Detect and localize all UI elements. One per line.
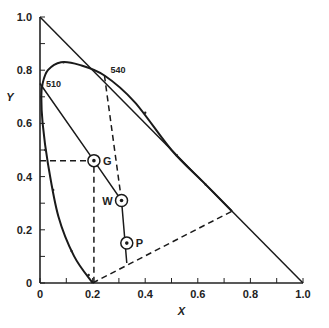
y-tick-label: 0 (26, 277, 32, 289)
dashed-g-projection-line (40, 161, 94, 283)
line-510-w-p-line (40, 84, 127, 264)
x-tick-label: 0 (37, 288, 43, 300)
point-dot (125, 241, 129, 245)
y-tick-label: 1.0 (17, 11, 32, 23)
point-w-label: W (102, 195, 113, 207)
labels: 00.20.40.60.81.000.20.40.60.81.0XY510540… (6, 11, 310, 317)
x-tick-label: 1.0 (295, 288, 310, 300)
x-axis-title: X (177, 305, 186, 317)
point-g-label: G (103, 155, 112, 167)
locus-tick (62, 61, 64, 63)
x-tick-label: 0.2 (85, 288, 100, 300)
locus-tick (70, 250, 72, 252)
x-tick-label: 0.8 (243, 288, 258, 300)
y-tick-label: 0.6 (17, 117, 32, 129)
locus-tick (176, 154, 178, 156)
y-axis-title: Y (6, 91, 15, 103)
wavelength-540-label: 540 (110, 65, 125, 75)
wavelength-510-label: 510 (46, 79, 61, 89)
dashed-purple-line-line (93, 211, 232, 283)
locus-tick (144, 112, 146, 114)
locus-tick (87, 274, 89, 276)
locus-tick (44, 149, 46, 151)
dashed-540-to-w-line (104, 76, 121, 201)
y-tick-label: 0.4 (17, 171, 33, 183)
triangle-boundary-x-y-1-line (40, 17, 303, 283)
chromaticity-chart: 00.20.40.60.81.000.20.40.60.81.0XY510540… (0, 0, 329, 328)
point-p-label: P (136, 237, 143, 249)
y-tick-label: 0.2 (17, 224, 32, 236)
point-dot (120, 199, 124, 203)
x-tick-label: 0.4 (138, 288, 154, 300)
series-group (40, 17, 303, 283)
x-tick-label: 0.6 (190, 288, 205, 300)
locus-tick (204, 183, 206, 185)
y-tick-label: 0.8 (17, 64, 32, 76)
point-dot (92, 159, 96, 163)
locus-tick (52, 189, 54, 191)
spectral-locus-line (41, 62, 232, 283)
